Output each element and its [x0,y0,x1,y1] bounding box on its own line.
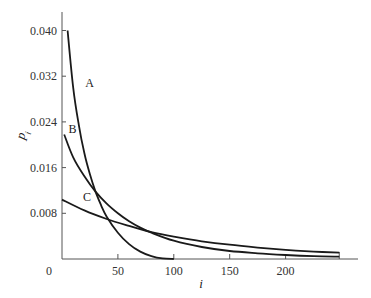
y-tick-label: 0.016 [30,161,57,175]
axes: 0.0080.0160.0240.0320.040050100150200 [30,12,358,278]
x-tick-label: 100 [165,264,183,278]
curve-label-b: B [69,122,77,136]
y-tick-label: 0.008 [30,206,57,220]
x-tick-label: 150 [221,264,239,278]
curve-b [64,135,339,257]
curve-c [62,200,339,253]
x-tick-label: 200 [277,264,295,278]
curve-label-c: C [83,190,91,204]
y-tick-label: 0.024 [30,115,57,129]
chart: 0.0080.0160.0240.0320.040050100150200 AB… [0,0,371,298]
y-axis-title: pi [12,128,33,143]
x-tick-label: 0 [46,264,52,278]
curves [62,31,339,260]
curve-label-a: A [85,76,94,90]
curve-a [68,31,174,260]
y-tick-label: 0.032 [30,69,57,83]
x-tick-label: 50 [112,264,124,278]
x-axis-title: i [199,276,203,291]
y-tick-label: 0.040 [30,24,57,38]
